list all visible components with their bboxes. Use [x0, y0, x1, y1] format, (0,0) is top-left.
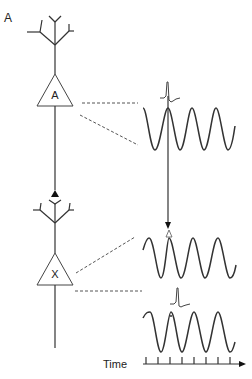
trace-neuron-x: [143, 288, 235, 352]
neuron-x-dendrites: [33, 200, 74, 253]
trace-neuron-x-phase: [143, 230, 236, 278]
neuron-oscillation-diagram: A A X: [0, 0, 252, 379]
arrow-head-icon: [165, 222, 171, 229]
neuron-a-label: A: [51, 89, 59, 101]
axis-arrow-icon: [239, 361, 246, 367]
phase-marker-icon: [166, 230, 172, 237]
trace-neuron-a: [143, 82, 235, 150]
neuron-x-label: X: [51, 268, 59, 280]
connector-a-lower: [80, 115, 138, 145]
neuron-a-dendrites: [27, 16, 74, 74]
spike-icon: [170, 288, 190, 307]
time-axis: Time: [103, 357, 246, 370]
connector-x-upper: [76, 237, 135, 273]
time-ticks: [146, 357, 230, 364]
synapse-terminal-icon: [51, 190, 59, 197]
panel-label: A: [4, 11, 12, 25]
spike-icon: [160, 82, 180, 102]
neuron-a-soma: A: [37, 74, 73, 106]
time-axis-label: Time: [103, 358, 127, 370]
neuron-x-soma: X: [37, 253, 73, 285]
